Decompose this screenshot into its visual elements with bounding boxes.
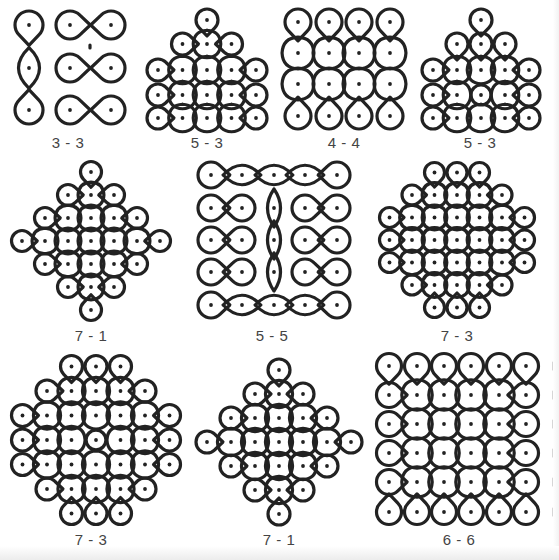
kolam-dot [277, 416, 281, 420]
kolam-dot [43, 262, 47, 266]
kolam-dot [20, 239, 24, 243]
kolam-dot [497, 510, 501, 514]
kolam-dot [229, 440, 233, 444]
kolam-dot [119, 438, 123, 442]
kolam-dot [415, 393, 419, 397]
kolam-dot [209, 206, 213, 210]
kolam-dot [277, 392, 281, 396]
kolam-dot [70, 512, 74, 516]
kolam-dot [524, 422, 528, 426]
kolam-dot [387, 393, 391, 397]
kolam-petal [91, 11, 125, 39]
kolam-dot [455, 261, 459, 265]
kolam-figure [0, 0, 559, 560]
kolam-dot [301, 464, 305, 468]
kolam-dot [254, 116, 258, 120]
kolam-petal [346, 97, 372, 129]
kolam-dot [527, 116, 531, 120]
kolam-dot [205, 116, 209, 120]
kolam-dot [455, 193, 459, 197]
kolam-dot [415, 422, 419, 426]
kolam-dot [21, 438, 25, 442]
kolam-dot [119, 463, 123, 467]
kolam-dot [455, 216, 459, 220]
kolam-dot [455, 68, 459, 72]
kolam-dot [387, 451, 391, 455]
kolam-dot [277, 440, 281, 444]
kolam-dot [527, 93, 531, 97]
kolam-dot [503, 68, 507, 72]
kolam-dot [500, 238, 504, 242]
panel-label-5-3-left: 5 - 3 [191, 134, 224, 151]
kolam-dot [253, 488, 257, 492]
kolam-dot [43, 239, 47, 243]
kolam-dot [230, 42, 234, 46]
kolam-dot [500, 193, 504, 197]
kolam-dot [433, 261, 437, 265]
kolam-dot [433, 171, 437, 175]
kolam-dot [277, 368, 281, 372]
kolam-dot [230, 93, 234, 97]
kolam-dot [158, 239, 162, 243]
kolam-dot [478, 171, 482, 175]
kolam-dot [410, 261, 414, 265]
kolam-dot [21, 414, 25, 418]
kolam-dot [335, 206, 339, 210]
kolam-dot [119, 414, 123, 418]
kolam-dot [143, 389, 147, 393]
kolam-dot [527, 68, 531, 72]
kolam-dot [415, 364, 419, 368]
kolam-dot [109, 23, 113, 27]
kolam-dot [497, 480, 501, 484]
kolam-dot [503, 93, 507, 97]
kolam-dot [478, 306, 482, 310]
kolam-dot [89, 285, 93, 289]
kolam-dot [94, 438, 98, 442]
kolam-petal [15, 90, 43, 124]
kolam-dot [240, 270, 244, 274]
kolam-dot [135, 216, 139, 220]
kolam-dot [181, 68, 185, 72]
kolam-dot [253, 416, 257, 420]
kolam-dot [303, 303, 307, 307]
kolam-dot [272, 270, 276, 274]
kolam-dot [303, 238, 307, 242]
kolam-dot [94, 463, 98, 467]
kolam-dot [181, 116, 185, 120]
kolam-dot [469, 364, 473, 368]
kolam-dot [89, 308, 93, 312]
kolam-dot [112, 193, 116, 197]
kolam-dot [335, 303, 339, 307]
kolam-dot [156, 93, 160, 97]
kolam-dot [272, 303, 276, 307]
kolam-dot [303, 173, 307, 177]
kolam-dot [497, 393, 501, 397]
kolam-dot [135, 262, 139, 266]
kolam-dot [94, 365, 98, 369]
kolam-dot [335, 238, 339, 242]
kolam-dot [209, 173, 213, 177]
kolam-dot [455, 171, 459, 175]
kolam-dot [388, 114, 392, 118]
kolam-dot [209, 303, 213, 307]
kolam-dot [479, 18, 483, 22]
kolam-dot [388, 238, 392, 242]
kolam-dot [89, 216, 93, 220]
kolam-dot [357, 20, 361, 24]
kolam-dot [500, 283, 504, 287]
kolam-dot [89, 193, 93, 197]
kolam-dot [70, 463, 74, 467]
page-edge-shadow [553, 0, 559, 560]
kolam-dot [296, 20, 300, 24]
kolam-dot [45, 463, 49, 467]
kolam-dot [327, 20, 331, 24]
kolam-dot [253, 464, 257, 468]
kolam-dot [27, 23, 31, 27]
kolam-dot [229, 416, 233, 420]
kolam-dot [442, 510, 446, 514]
kolam-dot [119, 487, 123, 491]
kolam-dot [503, 42, 507, 46]
kolam-dot [296, 114, 300, 118]
kolam-dot [205, 42, 209, 46]
kolam-dot [478, 193, 482, 197]
